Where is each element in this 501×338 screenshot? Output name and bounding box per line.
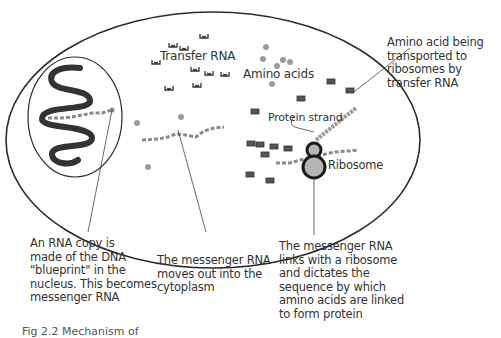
label-transfer-rna: Transfer RNA (160, 50, 235, 64)
label-amino-acids: Amino acids (243, 68, 314, 82)
mrna-in-cytoplasm (142, 127, 224, 140)
figure-caption: Fig 2.2 Mechanism of (22, 325, 139, 338)
callout-mrna-links: The messenger RNA links with a ribosome … (279, 240, 404, 321)
ribosome (303, 143, 325, 178)
callout-amino-transport: Amino acid being transported to ribosome… (387, 36, 484, 90)
callout-mrna-moves: The messenger RNA moves out into the cyt… (157, 254, 271, 295)
label-ribosome: Ribosome (328, 159, 383, 173)
label-protein-strand: Protein strand (268, 111, 343, 125)
callout-rna-copy: An RNA copy is made of the DNA "blueprin… (30, 237, 157, 305)
